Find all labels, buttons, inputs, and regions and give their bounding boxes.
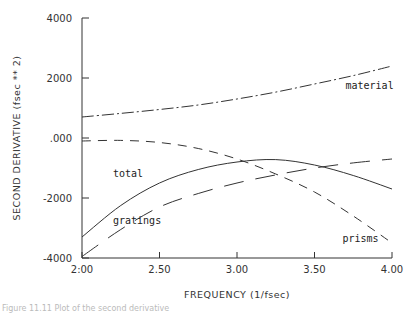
prisms-label: prisms [342, 233, 378, 244]
y-axis-title: SECOND DERIVATIVE (fsec ** 2) [11, 56, 22, 221]
series-lines [82, 66, 392, 257]
figure-caption: Figure 11.11 Plot of the second derivati… [2, 304, 169, 313]
x-tick-label: 2.50 [148, 264, 170, 275]
x-axis-title: FREQUENCY (1/fsec) [184, 289, 290, 300]
total-label: total [113, 168, 143, 179]
x-tick-label: 3.00 [226, 264, 248, 275]
prisms-line [82, 140, 392, 243]
material-label: material [346, 80, 394, 91]
y-tick-label: 4000 [47, 13, 72, 24]
gratings-label: gratings [113, 215, 161, 226]
x-tick-label: 2:00 [71, 264, 93, 275]
chart: 40002000.000-2000-40002:002.503.003.504.… [0, 0, 417, 317]
y-tick-label: -2000 [43, 193, 72, 204]
x-tick-label: 4.00 [381, 264, 403, 275]
series-labels: materialprismstotalgratings [113, 80, 394, 244]
x-tick-label: 3.50 [303, 264, 325, 275]
y-tick-label: -4000 [43, 253, 72, 264]
y-tick-label: 2000 [47, 73, 72, 84]
material-line [82, 66, 392, 117]
y-tick-label: .000 [50, 133, 72, 144]
